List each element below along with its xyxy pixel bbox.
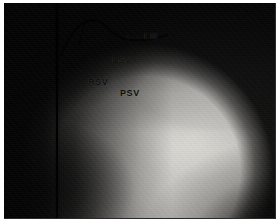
catheter-line (56, 3, 58, 219)
radiograph-image: LM LSV RSV PSV (4, 3, 276, 219)
lm-leader-arrow-icon (124, 34, 143, 41)
radiograph-figure: LM LSV RSV PSV (0, 0, 276, 219)
annotation-label-lm: LM (144, 32, 158, 41)
annotation-label-psv: PSV (120, 89, 140, 98)
annotation-label-lsv: LSV (112, 56, 131, 65)
arrow-shaft (128, 37, 143, 38)
annotation-label-rsv: RSV (88, 78, 108, 87)
